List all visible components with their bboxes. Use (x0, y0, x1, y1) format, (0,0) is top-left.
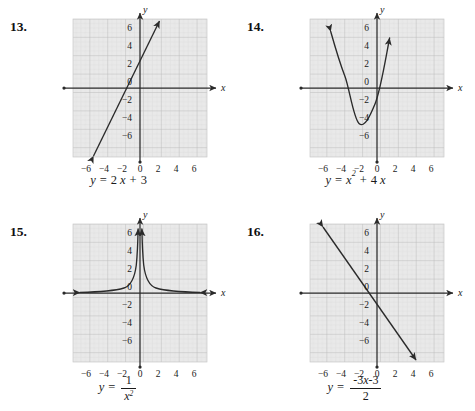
x-axis-label-16: x (457, 287, 463, 298)
eq13-const: 3 (141, 174, 147, 187)
eq14-var2: x (380, 174, 386, 187)
equation-13: y = 2x + 3 (0, 173, 237, 188)
eq14-exponent: 2 (352, 169, 356, 178)
svg-text:2: 2 (127, 264, 132, 274)
ytick-6: 6 (127, 23, 132, 33)
svg-text:2: 2 (364, 59, 369, 69)
y-axis-label-14: y (379, 4, 385, 15)
eq16-fraction: -3x-3 2 (350, 374, 381, 402)
y-axis-label-16: y (379, 209, 385, 220)
eq14-var: x (346, 174, 352, 188)
problem-panel-15: 15. (0, 205, 237, 410)
x-axis-label-13: x (220, 82, 226, 93)
eq13-equals: = (99, 174, 108, 187)
svg-text:−6: −6 (122, 336, 132, 346)
worksheet-page: 13. (0, 0, 475, 411)
eq14-equals: = (334, 174, 343, 187)
ytick-n4: −4 (122, 113, 132, 123)
ytick-4: 4 (127, 41, 132, 51)
eq16-equals: = (336, 381, 345, 394)
eq15-fraction: 1 x2 (121, 374, 136, 402)
svg-text:−2: −2 (359, 300, 369, 310)
eq15-numerator: 1 (123, 374, 135, 388)
eq15-den-exponent: 2 (130, 389, 134, 398)
ytick-n6: −6 (122, 131, 132, 141)
svg-text:−4: −4 (122, 318, 132, 328)
ytick-2: 2 (127, 59, 132, 69)
svg-text:6: 6 (364, 228, 369, 238)
svg-text:0: 0 (364, 282, 369, 292)
y-axis-label-15: y (142, 209, 148, 220)
svg-text:6: 6 (364, 23, 369, 33)
eq13-plus: + (129, 174, 138, 187)
svg-text:−6: −6 (359, 131, 369, 141)
eq13-lhs: y (90, 174, 96, 187)
svg-text:4: 4 (364, 41, 369, 51)
eq13-var: x (120, 174, 126, 187)
y-axis-label-13: y (142, 4, 148, 15)
svg-text:−2: −2 (359, 95, 369, 105)
svg-text:4: 4 (127, 246, 132, 256)
eq14-coef: 4 (371, 174, 377, 187)
svg-text:−4: −4 (359, 113, 369, 123)
eq14-lhs: y (325, 174, 331, 187)
svg-text:2: 2 (364, 264, 369, 274)
svg-text:−6: −6 (359, 336, 369, 346)
svg-text:0: 0 (127, 282, 132, 292)
eq15-den-var: x (124, 389, 129, 403)
equation-15: y = 1 x2 (0, 373, 237, 401)
eq14-plus: + (359, 174, 368, 187)
equation-14: y = x2 + 4x (237, 173, 474, 188)
equation-16: y = -3x-3 2 (237, 373, 474, 401)
eq16-lhs: y (328, 381, 334, 394)
eq16-num-const: -3 (368, 373, 378, 387)
svg-text:−2: −2 (122, 300, 132, 310)
problem-panel-16: 16. (237, 205, 474, 410)
svg-text:6: 6 (127, 228, 132, 238)
eq13-coef: 2 (111, 174, 117, 187)
eq15-denominator: x2 (121, 389, 136, 403)
ytick-0: 0 (127, 77, 132, 87)
ytick-n2: −2 (122, 95, 132, 105)
svg-text:−4: −4 (359, 318, 369, 328)
svg-text:4: 4 (364, 246, 369, 256)
x-axis-label-14: x (457, 82, 463, 93)
eq15-equals: = (107, 381, 116, 394)
svg-text:0: 0 (364, 77, 369, 87)
eq16-num-coef: -3 (353, 373, 363, 387)
eq15-lhs: y (99, 381, 105, 394)
problem-panel-13: 13. (0, 0, 237, 205)
problem-panel-14: 14. (237, 0, 474, 205)
x-axis-label-15: x (220, 287, 226, 298)
eq16-numerator: -3x-3 (350, 374, 381, 388)
eq16-denominator: 2 (360, 389, 372, 403)
